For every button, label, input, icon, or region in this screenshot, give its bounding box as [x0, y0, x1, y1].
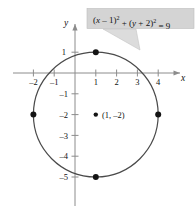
point-top [93, 49, 99, 55]
x-tick-label--2: –2 [28, 77, 38, 87]
x-axis-arrow [174, 70, 181, 75]
x-tick-label-3: 3 [135, 77, 139, 87]
center-point-label: (1, –2) [102, 110, 125, 120]
circle-graph-figure: y x –2 –1 1 2 3 4 1 –1 –2 –3 –4 –5 (1, –… [0, 0, 196, 212]
y-tick-label--3: –3 [59, 131, 69, 141]
point-right [155, 112, 161, 118]
y-axis-label: y [63, 18, 69, 28]
point-center [94, 112, 98, 116]
y-tick-label--2: –2 [59, 110, 69, 120]
x-tick-label-4: 4 [156, 77, 161, 87]
y-tick-label--1: –1 [59, 89, 69, 99]
x-tick-label--1: –1 [49, 77, 59, 87]
coordinate-plane: y x –2 –1 1 2 3 4 1 –1 –2 –3 –4 –5 (1, –… [0, 0, 196, 212]
x-axis [13, 70, 180, 77]
y-axis [72, 24, 79, 206]
callout-pointer [103, 29, 140, 50]
eq-equals-nine: = 9 [156, 21, 171, 31]
x-tick-label-1: 1 [94, 77, 98, 87]
eq-plus: + [120, 18, 130, 28]
eq-x-shift: – 1 [100, 15, 114, 25]
y-tick-label--4: –4 [59, 151, 69, 161]
y-tick-label--5: –5 [59, 172, 69, 182]
x-axis-label: x [180, 73, 186, 83]
point-left [30, 112, 36, 118]
eq-y-shift: + 2 [136, 18, 150, 28]
x-tick-label-2: 2 [114, 77, 118, 87]
y-tick-label-1: 1 [62, 47, 66, 57]
y-axis-arrow [72, 24, 77, 31]
point-bottom [93, 174, 99, 180]
